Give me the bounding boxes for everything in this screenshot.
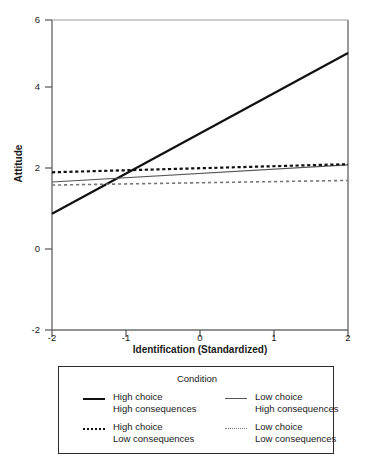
legend: Condition High choiceHigh consequences L… bbox=[58, 366, 334, 454]
series-line-high-choice-high-consequences bbox=[52, 53, 348, 214]
legend-entry-low-choice-high-consequences[interactable]: Low choiceHigh consequences bbox=[225, 391, 359, 419]
legend-entry-label: Low choiceLow consequences bbox=[255, 421, 336, 445]
solid-thick-line-icon bbox=[83, 398, 105, 404]
y-tick-label-4: 4 bbox=[18, 82, 40, 92]
legend-line-2: High consequences bbox=[255, 403, 338, 414]
x-tick-label--2: -2 bbox=[37, 333, 67, 343]
x-axis-label: Identification (Standardized) bbox=[52, 344, 348, 355]
y-tick-label-6: 6 bbox=[18, 15, 40, 25]
legend-line-1: Low choice bbox=[255, 421, 303, 432]
legend-entry-label: High choiceLow consequences bbox=[113, 421, 194, 445]
figure-container: Attitude Identification (Standardized) 6… bbox=[0, 0, 369, 468]
x-tick-label--1: -1 bbox=[111, 333, 141, 343]
legend-title: Condition bbox=[59, 373, 335, 384]
legend-entry-label: High choiceHigh consequences bbox=[113, 391, 196, 415]
legend-line-2: Low consequences bbox=[255, 433, 336, 444]
legend-line-1: Low choice bbox=[255, 391, 303, 402]
legend-line-2: High consequences bbox=[113, 403, 196, 414]
legend-entry-high-choice-low-consequences[interactable]: High choiceLow consequences bbox=[83, 421, 217, 449]
series-line-high-choice-low-consequences bbox=[52, 164, 348, 172]
series-line-low-choice-low-consequences bbox=[52, 180, 348, 185]
y-tick-label-0: 0 bbox=[18, 244, 40, 254]
x-tick-label-1: 1 bbox=[259, 333, 289, 343]
x-tick-label-0: 0 bbox=[185, 333, 215, 343]
dashed-thick-line-icon bbox=[83, 428, 105, 434]
legend-line-2: Low consequences bbox=[113, 433, 194, 444]
legend-line-1: High choice bbox=[113, 421, 163, 432]
legend-entry-high-choice-high-consequences[interactable]: High choiceHigh consequences bbox=[83, 391, 217, 419]
legend-line-1: High choice bbox=[113, 391, 163, 402]
dashed-thin-line-icon bbox=[225, 428, 247, 433]
solid-thin-line-icon bbox=[225, 398, 247, 403]
legend-entry-label: Low choiceHigh consequences bbox=[255, 391, 338, 415]
legend-entry-low-choice-low-consequences[interactable]: Low choiceLow consequences bbox=[225, 421, 359, 449]
y-tick-label-2: 2 bbox=[18, 163, 40, 173]
x-tick-label-2: 2 bbox=[333, 333, 363, 343]
